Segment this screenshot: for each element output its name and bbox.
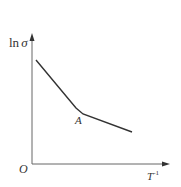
diagram-canvas: lnσ T-1 O A — [0, 0, 181, 187]
origin-label: O — [19, 162, 28, 176]
x-axis-arrow-icon — [162, 162, 170, 167]
point-a-label: A — [74, 114, 82, 126]
y-axis-label: lnσ — [9, 35, 28, 50]
data-line — [36, 60, 132, 132]
y-axis-label-sigma: σ — [21, 35, 28, 50]
x-axis-label: T-1 — [147, 169, 159, 182]
y-axis-arrow-icon — [30, 33, 35, 41]
